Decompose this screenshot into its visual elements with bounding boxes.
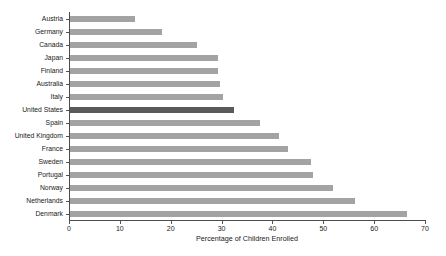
- bar: [70, 55, 218, 61]
- x-axis-tick-label: 70: [410, 225, 440, 233]
- bar: [70, 68, 218, 74]
- category-label: Japan: [0, 54, 63, 61]
- category-label: Portugal: [0, 171, 63, 178]
- category-axis: AustriaGermanyCanadaJapanFinlandAustrali…: [0, 12, 66, 220]
- x-axis-tick: [171, 221, 172, 224]
- x-axis-tick-label: 30: [207, 225, 237, 233]
- bar: [70, 211, 407, 217]
- category-label: Netherlands: [0, 197, 63, 204]
- category-label: United States: [0, 106, 63, 113]
- bar-chart: AustriaGermanyCanadaJapanFinlandAustrali…: [0, 0, 446, 256]
- x-axis-tick: [222, 221, 223, 224]
- category-label: Sweden: [0, 158, 63, 165]
- category-label: Denmark: [0, 210, 63, 217]
- x-axis-tick-label: 50: [308, 225, 338, 233]
- x-axis-tick: [425, 221, 426, 224]
- bar: [70, 81, 220, 87]
- x-axis-tick-label: 20: [156, 225, 186, 233]
- bar: [70, 159, 311, 165]
- x-axis-tick-label: 10: [105, 225, 135, 233]
- bar: [70, 120, 260, 126]
- y-axis-tick: [66, 32, 69, 33]
- bar: [70, 107, 234, 113]
- x-axis-line: [69, 220, 426, 221]
- bar: [70, 133, 279, 139]
- bar: [70, 198, 355, 204]
- y-axis-tick: [66, 214, 69, 215]
- category-label: Canada: [0, 41, 63, 48]
- bar: [70, 146, 288, 152]
- y-axis-tick: [66, 123, 69, 124]
- bar: [70, 16, 135, 22]
- bar: [70, 42, 197, 48]
- x-axis-tick-label: 0: [54, 225, 84, 233]
- x-axis-tick: [120, 221, 121, 224]
- plot-area: 010203040506070: [69, 12, 425, 220]
- y-axis-tick: [66, 188, 69, 189]
- category-label: United Kingdom: [0, 132, 63, 139]
- x-axis-tick-label: 60: [359, 225, 389, 233]
- y-axis-tick: [66, 175, 69, 176]
- bar: [70, 94, 223, 100]
- x-axis-tick: [323, 221, 324, 224]
- y-axis-tick: [66, 162, 69, 163]
- y-axis-tick: [66, 45, 69, 46]
- y-axis-tick: [66, 97, 69, 98]
- x-axis-tick-label: 40: [257, 225, 287, 233]
- y-axis-tick: [66, 136, 69, 137]
- y-axis-tick: [66, 84, 69, 85]
- bar: [70, 29, 162, 35]
- x-axis-tick: [69, 221, 70, 224]
- y-axis-tick: [66, 149, 69, 150]
- category-label: Australia: [0, 80, 63, 87]
- x-axis-tick: [374, 221, 375, 224]
- category-label: Spain: [0, 119, 63, 126]
- category-label: Germany: [0, 28, 63, 35]
- category-label: Austria: [0, 15, 63, 22]
- y-axis-tick: [66, 71, 69, 72]
- y-axis-tick: [66, 19, 69, 20]
- category-label: France: [0, 145, 63, 152]
- category-label: Finland: [0, 67, 63, 74]
- x-axis-title: Percentage of Children Enrolled: [69, 234, 425, 243]
- y-axis-tick: [66, 58, 69, 59]
- bar: [70, 185, 333, 191]
- y-axis-tick: [66, 201, 69, 202]
- y-axis-tick: [66, 110, 69, 111]
- bar: [70, 172, 313, 178]
- category-label: Norway: [0, 184, 63, 191]
- x-axis-tick: [272, 221, 273, 224]
- category-label: Italy: [0, 93, 63, 100]
